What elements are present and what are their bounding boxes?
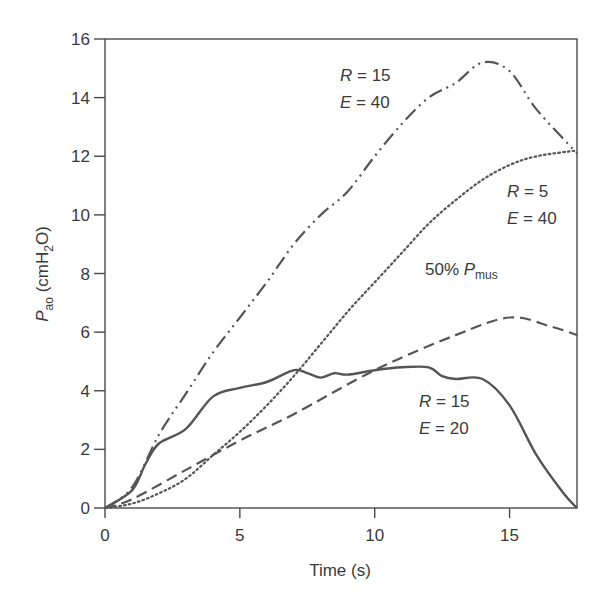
y-tick-label: 8	[81, 265, 90, 284]
y-title-main: P	[33, 310, 52, 322]
annotation-r15-e20: R = 15 E = 20	[419, 392, 470, 438]
series-layer	[105, 62, 577, 508]
svg-text:50% Pmus: 50% Pmus	[425, 260, 498, 282]
y-tick-label: 0	[81, 499, 90, 518]
svg-text:R = 15: R = 15	[419, 392, 470, 411]
y-tick-label: 12	[71, 147, 90, 166]
x-axis-title: Time (s)	[309, 561, 371, 580]
svg-text:E = 40: E = 40	[340, 93, 390, 112]
svg-text:E = 40: E = 40	[507, 209, 557, 228]
svg-text:E = 20: E = 20	[419, 419, 469, 438]
annotation-50-pmus: 50% Pmus	[425, 260, 498, 282]
svg-text:R = 15: R = 15	[340, 66, 391, 85]
y-title-sub: ao	[42, 297, 56, 311]
y-axis: 0246810121416	[71, 30, 105, 518]
y-title-unit-pre: (cmH	[33, 252, 52, 297]
x-tick-label: 5	[235, 526, 244, 545]
y-tick-label: 2	[81, 440, 90, 459]
y-tick-label: 4	[81, 382, 90, 401]
annotation-r5-e40: R = 5 E = 40	[507, 182, 557, 228]
x-tick-label: 10	[365, 526, 384, 545]
series-r-5-e-40	[105, 150, 577, 508]
y-title-unit-post: O)	[33, 226, 52, 245]
line-chart: 0246810121416 051015 Time (s) Pao (cmH2O…	[0, 0, 605, 603]
annotation-r15-e40: R = 15 E = 40	[340, 66, 391, 112]
y-axis-title: Pao (cmH2O)	[33, 226, 56, 322]
x-axis: 051015	[100, 508, 519, 545]
y-tick-label: 6	[81, 323, 90, 342]
x-tick-label: 0	[100, 526, 109, 545]
svg-text:R = 5: R = 5	[507, 182, 548, 201]
series-r-15-e-40	[105, 62, 577, 508]
y-tick-label: 14	[71, 89, 90, 108]
y-tick-label: 16	[71, 30, 90, 49]
x-tick-label: 15	[500, 526, 519, 545]
svg-text:Pao (cmH2O): Pao (cmH2O)	[33, 226, 56, 322]
series-50-pmus	[105, 317, 577, 508]
y-tick-label: 10	[71, 206, 90, 225]
